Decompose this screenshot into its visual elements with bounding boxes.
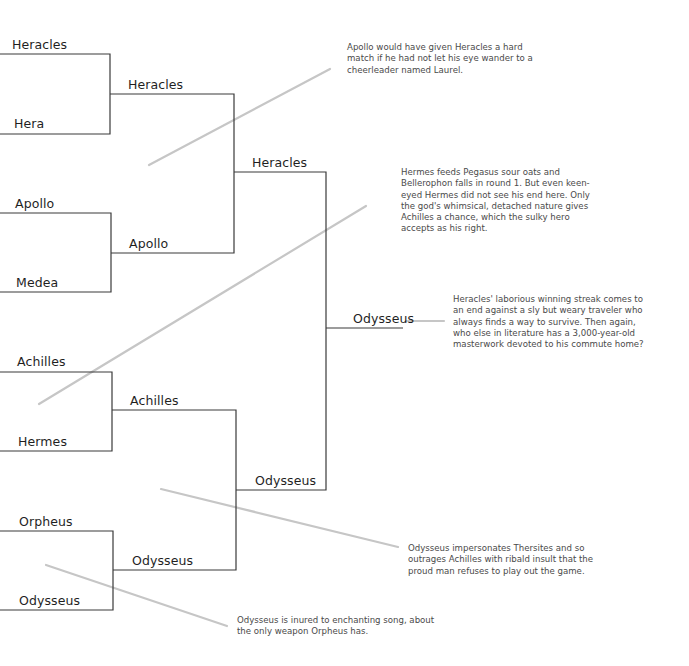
match-r2-2 [112, 410, 236, 570]
r2-winner-4: Odysseus [132, 554, 193, 568]
callout-line-achilles-hermes [39, 206, 366, 404]
r1-entrant-4: Medea [16, 276, 58, 290]
r3-winner-2: Odysseus [255, 474, 316, 488]
r3-winner-1: Heracles [252, 156, 307, 170]
annotation-odysseus-achilles: Odysseus impersonates Thersites and so o… [408, 543, 618, 577]
annotation-odysseus-orpheus: Odysseus is inured to enchanting song, a… [237, 615, 447, 638]
r2-winner-1: Heracles [128, 78, 183, 92]
r2-winner-3: Achilles [130, 394, 179, 408]
r1-entrant-8: Odysseus [19, 594, 80, 608]
r1-entrant-7: Orpheus [19, 515, 73, 529]
champion-name: Odysseus [353, 312, 414, 326]
callout-line-odysseus-achilles [161, 489, 398, 547]
r2-winner-2: Apollo [129, 237, 168, 251]
annotation-heracles-apollo: Apollo would have given Heracles a hard … [347, 42, 547, 76]
r1-entrant-6: Hermes [18, 435, 67, 449]
r1-entrant-2: Hera [14, 117, 44, 131]
r1-entrant-3: Apollo [15, 197, 54, 211]
tournament-bracket: Heracles Hera Apollo Medea Achilles Herm… [0, 0, 689, 666]
match-r2-1 [110, 94, 234, 253]
match-r3-1 [234, 172, 326, 490]
annotation-achilles-hermes: Hermes feeds Pegasus sour oats and Belle… [401, 167, 597, 235]
annotation-final: Heracles' laborious winning streak comes… [453, 294, 651, 350]
r1-entrant-5: Achilles [17, 355, 66, 369]
r1-entrant-1: Heracles [12, 38, 67, 52]
